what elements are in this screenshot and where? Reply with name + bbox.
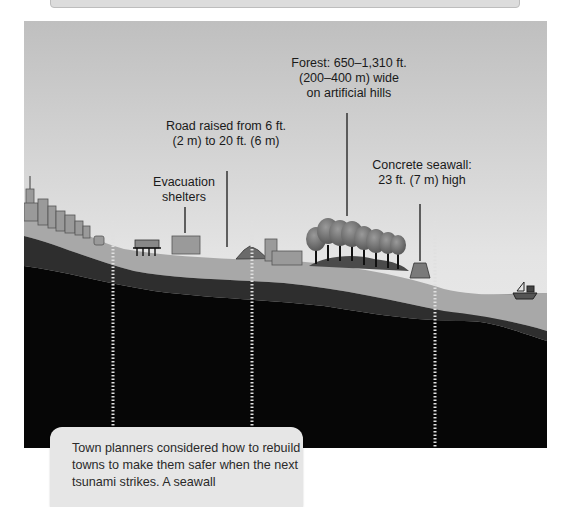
concrete-seawall	[410, 263, 430, 278]
caption-box: Town planners considered how to rebuild …	[50, 427, 303, 507]
top-caption-box	[50, 0, 520, 8]
evacuation-shelter-building	[172, 236, 200, 254]
caption-text: Town planners considered how to rebuild …	[50, 427, 312, 491]
building	[272, 251, 302, 265]
tsunami-town-plan-diagram: Forest: 650–1,310 ft. (200–400 m) wide o…	[24, 21, 547, 448]
evacuation-shelters-label: Evacuation shelters	[139, 175, 229, 205]
seawall-label: Concrete seawall: 23 ft. (7 m) high	[357, 158, 487, 188]
raised-road-label: Road raised from 6 ft. (2 m) to 20 ft. (…	[136, 119, 316, 149]
forest-label: Forest: 650–1,310 ft. (200–400 m) wide o…	[254, 56, 444, 101]
